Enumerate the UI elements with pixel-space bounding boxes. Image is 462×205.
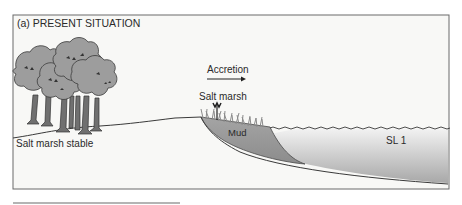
salt-marsh-label: Salt marsh <box>199 91 247 102</box>
diagram-panel-present-situation: (a) PRESENT SITUATION Accretion Salt mar… <box>0 0 462 205</box>
mud-label: Mud <box>228 127 246 138</box>
diagram-canvas <box>0 0 462 205</box>
accretion-label: Accretion <box>207 64 249 75</box>
panel-title: (a) PRESENT SITUATION <box>17 17 140 29</box>
sea-level-label: SL 1 <box>386 135 406 146</box>
salt-marsh-stable-label: Salt marsh stable <box>16 138 93 149</box>
